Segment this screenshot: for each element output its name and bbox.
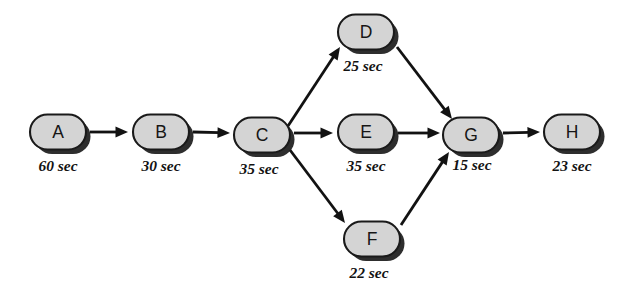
edge-c-to-d <box>288 47 340 126</box>
edge-g-to-h <box>503 127 540 138</box>
duration-label-h: 23 sec <box>551 157 591 174</box>
edge-c-to-e <box>294 128 333 139</box>
edge-e-to-g <box>398 128 440 139</box>
node-e[interactable]: E <box>338 115 399 155</box>
edge-c-to-f <box>290 150 345 223</box>
node-letter: H <box>566 122 579 142</box>
duration-label-d: 25 sec <box>342 57 382 74</box>
arrowhead-icon <box>438 152 449 165</box>
edge-line <box>193 132 220 133</box>
edge-f-to-g <box>401 152 449 225</box>
node-c[interactable]: C <box>234 118 295 158</box>
edge-line <box>288 56 334 126</box>
arrowhead-icon <box>527 127 540 138</box>
duration-label-e: 35 sec <box>345 157 385 174</box>
duration-label-a: 60 sec <box>38 157 77 174</box>
edge-line <box>290 150 339 215</box>
node-letter: D <box>360 22 373 42</box>
node-f[interactable]: F <box>344 222 405 262</box>
node-d[interactable]: D <box>338 15 399 55</box>
nodes-layer: ABCDEFGH <box>30 15 605 262</box>
duration-label-f: 22 sec <box>348 264 388 281</box>
arrowhead-icon <box>321 128 334 139</box>
node-letter: A <box>52 122 64 142</box>
edge-b-to-c <box>193 127 230 138</box>
arrowhead-icon <box>329 47 340 60</box>
node-letter: E <box>360 122 372 142</box>
edge-a-to-b <box>90 127 128 138</box>
arrowhead-icon <box>428 128 441 139</box>
node-b[interactable]: B <box>133 115 194 155</box>
node-a[interactable]: A <box>30 115 91 155</box>
node-letter: B <box>155 122 167 142</box>
edge-line <box>503 132 530 133</box>
node-letter: G <box>464 125 478 145</box>
arrowhead-icon <box>217 127 230 138</box>
duration-label-b: 30 sec <box>140 157 180 174</box>
activity-network-diagram: ABCDEFGH 60 sec30 sec35 sec25 sec35 sec2… <box>0 0 640 292</box>
node-letter: C <box>256 125 269 145</box>
edge-line <box>397 47 446 111</box>
node-letter: F <box>367 229 378 249</box>
node-g[interactable]: G <box>443 118 504 158</box>
arrowhead-icon <box>116 127 129 138</box>
duration-label-g: 15 sec <box>452 156 491 173</box>
node-h[interactable]: H <box>544 115 605 155</box>
edge-line <box>401 161 443 225</box>
labels-layer: 60 sec30 sec35 sec25 sec35 sec22 sec15 s… <box>38 57 591 281</box>
duration-label-c: 35 sec <box>238 160 278 177</box>
edge-d-to-g <box>397 47 452 119</box>
